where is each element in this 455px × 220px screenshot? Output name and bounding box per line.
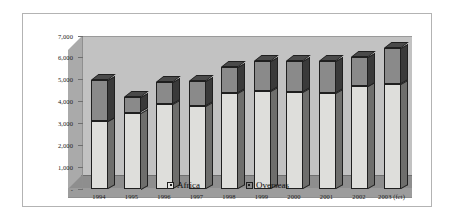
column-segment-africa-side <box>401 80 408 189</box>
y-axis-tick: 6,000 <box>23 54 82 61</box>
column-segment-overseas[interactable] <box>189 81 206 106</box>
chart-column[interactable] <box>221 67 238 189</box>
column-segment-overseas[interactable] <box>91 80 108 122</box>
column-segment-overseas-side <box>336 57 343 93</box>
y-axis-tick: 3,000 <box>23 120 82 127</box>
y-axis-tick: 1,000 <box>23 164 82 171</box>
column-segment-overseas-side <box>401 44 408 84</box>
legend-label-africa: Africa <box>177 180 200 190</box>
y-axis-tick-mark <box>78 101 83 102</box>
column-segment-overseas-side <box>108 76 115 122</box>
legend-swatch-overseas <box>246 182 253 189</box>
y-axis-tick: 2,000 <box>23 142 82 149</box>
chart-column[interactable] <box>254 61 271 189</box>
y-axis-tick-mark <box>78 145 83 146</box>
column-segment-overseas-side <box>173 78 180 104</box>
chart-plot-area: -1,0002,0003,0004,0005,0006,0007,000 199… <box>23 14 433 208</box>
y-axis-tick-mark <box>78 36 83 37</box>
chart-column[interactable] <box>286 61 303 189</box>
chart-column[interactable] <box>91 80 108 189</box>
chart-column[interactable] <box>384 48 401 189</box>
y-axis-tick-mark <box>78 167 83 168</box>
y-axis-tick-label: 3,000 <box>37 120 73 127</box>
legend-label-overseas: Overseas <box>256 180 289 190</box>
column-segment-overseas-side <box>271 57 278 91</box>
column-segment-overseas[interactable] <box>319 61 336 93</box>
chart-column[interactable] <box>189 81 206 189</box>
column-segment-overseas-side <box>206 77 213 106</box>
legend-item-africa[interactable]: Africa <box>167 180 200 190</box>
y-axis-tick-label: 7,000 <box>37 33 73 40</box>
column-segment-overseas[interactable] <box>221 67 238 93</box>
legend-swatch-africa <box>167 182 174 189</box>
y-axis-tick-label: 4,000 <box>37 98 73 105</box>
column-segment-overseas[interactable] <box>351 57 368 87</box>
chart-legend: Africa Overseas <box>23 174 433 196</box>
column-segment-overseas[interactable] <box>286 61 303 92</box>
y-axis-tick-label: 6,000 <box>37 54 73 61</box>
column-segment-overseas-side <box>303 57 310 92</box>
column-segment-overseas-side <box>238 63 245 93</box>
column-segment-overseas[interactable] <box>124 97 141 112</box>
y-axis-tick-mark <box>78 123 83 124</box>
column-segment-overseas[interactable] <box>254 61 271 91</box>
column-segment-overseas[interactable] <box>156 82 173 104</box>
column-segment-overseas[interactable] <box>384 48 401 84</box>
y-axis-tick-label: 1,000 <box>37 164 73 171</box>
y-axis-tick: 7,000 <box>23 33 82 40</box>
y-axis-tick: 4,000 <box>23 98 82 105</box>
y-axis-tick-mark <box>78 57 83 58</box>
chart-column[interactable] <box>156 82 173 189</box>
chart-frame: -1,0002,0003,0004,0005,0006,0007,000 199… <box>22 13 432 207</box>
y-axis-tick: 5,000 <box>23 76 82 83</box>
column-segment-africa-side <box>368 82 375 189</box>
y-axis-tick-label: 2,000 <box>37 142 73 149</box>
y-axis-tick-mark <box>78 79 83 80</box>
legend-item-overseas[interactable]: Overseas <box>246 180 289 190</box>
chart-column[interactable] <box>319 61 336 189</box>
column-segment-overseas-side <box>368 53 375 87</box>
y-axis-tick-label: 5,000 <box>37 76 73 83</box>
chart-column[interactable] <box>351 57 368 189</box>
